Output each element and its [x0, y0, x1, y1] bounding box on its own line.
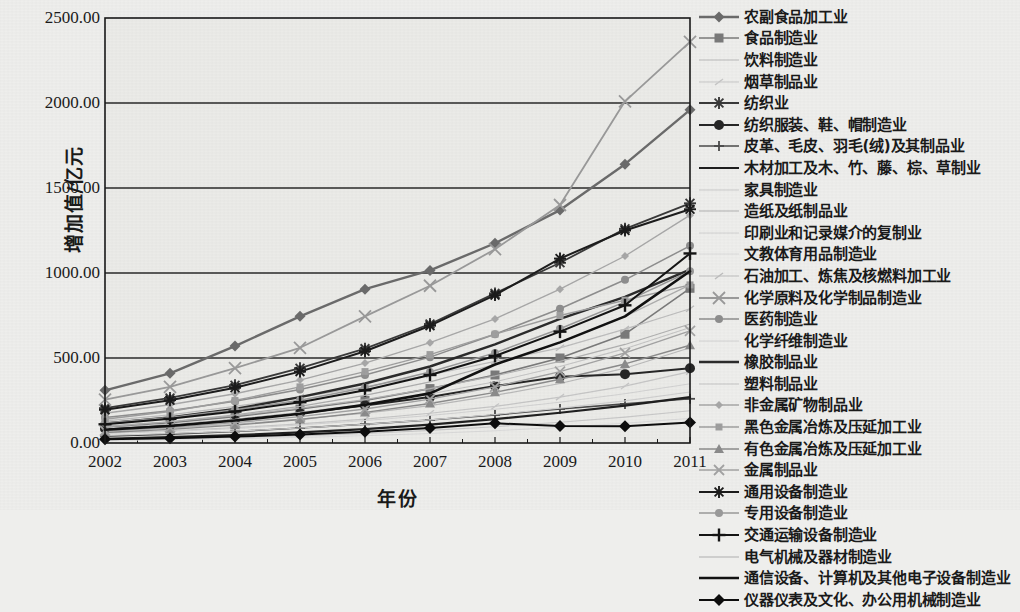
legend-item[interactable]: 交通运输设备制造业 — [698, 524, 1018, 546]
legend-item-label: 有色金属冶炼及压延加工业 — [744, 441, 922, 457]
legend-item[interactable]: 烟草制品业 — [698, 71, 1018, 93]
legend-item[interactable]: 石油加工、炼焦及核燃料加工业 — [698, 265, 1018, 287]
legend-item-label: 造纸及纸制品业 — [744, 203, 848, 219]
data-point-marker — [556, 305, 564, 313]
legend-key-icon — [698, 460, 740, 480]
legend-key-icon — [698, 266, 740, 286]
legend-key-icon — [698, 439, 740, 459]
legend-item[interactable]: 文教体育用品制造业 — [698, 244, 1018, 266]
legend-item[interactable]: 专用设备制造业 — [698, 503, 1018, 525]
chart-legend: 农副食品加工业食品制造业饮料制造业烟草制品业纺织业纺织服装、鞋、帽制造业皮革、毛… — [698, 6, 1018, 504]
x-tick-label: 2009 — [525, 452, 595, 472]
x-tick-label: 2008 — [460, 452, 530, 472]
data-point-marker — [621, 276, 629, 284]
legend-item-label: 化学原料及化学制品制造业 — [744, 290, 922, 306]
data-point-marker — [297, 383, 304, 390]
legend-key-icon — [698, 568, 740, 588]
legend-key-icon — [698, 115, 740, 135]
legend-item[interactable]: 化学纤维制造业 — [698, 330, 1018, 352]
legend-item[interactable]: 家具制造业 — [698, 179, 1018, 201]
legend-item-label: 纺织服装、鞋、帽制造业 — [744, 117, 907, 133]
legend-item[interactable]: 皮革、毛皮、羽毛(绒)及其制品业 — [698, 136, 1018, 158]
legend-item[interactable]: 木材加工及木、竹、藤、棕、草制业 — [698, 157, 1018, 179]
legend-item-label: 仪器仪表及文化、办公用机械制造业 — [744, 592, 981, 608]
legend-item-label: 家具制造业 — [744, 182, 818, 198]
legend-item-label: 医药制造业 — [744, 311, 818, 327]
legend-key-icon — [698, 417, 740, 437]
data-point-marker — [715, 34, 724, 43]
legend-item[interactable]: 橡胶制品业 — [698, 352, 1018, 374]
data-point-marker — [713, 594, 725, 606]
legend-item[interactable]: 造纸及纸制品业 — [698, 200, 1018, 222]
data-point-marker — [427, 351, 434, 358]
legend-item[interactable]: 仪器仪表及文化、办公用机械制造业 — [698, 589, 1018, 611]
legend-key-icon — [698, 50, 740, 70]
legend-item-label: 烟草制品业 — [744, 74, 818, 90]
data-point-marker — [557, 312, 564, 319]
legend-item-label: 黑色金属冶炼及压延加工业 — [744, 419, 922, 435]
legend-item-label: 化学纤维制造业 — [744, 333, 848, 349]
legend-item-label: 电气机械及器材制造业 — [744, 549, 892, 565]
legend-item-label: 专用设备制造业 — [744, 505, 848, 521]
legend-key-icon — [698, 374, 740, 394]
legend-item[interactable]: 通信设备、计算机及其他电子设备制造业 — [698, 567, 1018, 589]
data-point-marker — [492, 331, 499, 338]
legend-item[interactable]: 有色金属冶炼及压延加工业 — [698, 438, 1018, 460]
legend-item-label: 文教体育用品制造业 — [744, 246, 877, 262]
legend-item-label: 木材加工及木、竹、藤、棕、草制业 — [744, 160, 981, 176]
data-point-marker — [716, 424, 723, 431]
x-tick-label: 2004 — [200, 452, 270, 472]
legend-item[interactable]: 饮料制造业 — [698, 49, 1018, 71]
x-axis-tick-labels: 2002200320042005200620072008200920102011 — [105, 452, 690, 478]
x-tick-label: 2003 — [135, 452, 205, 472]
legend-key-icon — [698, 244, 740, 264]
legend-item-label: 交通运输设备制造业 — [744, 527, 877, 543]
legend-key-icon — [698, 158, 740, 178]
legend-item-label: 金属制品业 — [744, 462, 818, 478]
legend-key-icon — [698, 93, 740, 113]
legend-item-label: 皮革、毛皮、羽毛(绒)及其制品业 — [744, 138, 965, 154]
legend-item-label: 食品制造业 — [744, 30, 818, 46]
legend-item-label: 橡胶制品业 — [744, 354, 818, 370]
legend-key-icon — [698, 525, 740, 545]
legend-key-icon — [698, 7, 740, 27]
legend-item[interactable]: 化学原料及化学制品制造业 — [698, 287, 1018, 309]
x-tick-label: 2010 — [590, 452, 660, 472]
legend-key-icon — [698, 331, 740, 351]
x-tick-label: 2006 — [330, 452, 400, 472]
x-axis-title: 年份 — [105, 484, 690, 511]
legend-item[interactable]: 电气机械及器材制造业 — [698, 546, 1018, 568]
legend-item[interactable]: 医药制造业 — [698, 308, 1018, 330]
legend-item[interactable]: 农副食品加工业 — [698, 6, 1018, 28]
legend-item[interactable]: 塑料制品业 — [698, 373, 1018, 395]
legend-item[interactable]: 纺织服装、鞋、帽制造业 — [698, 114, 1018, 136]
legend-item[interactable]: 黑色金属冶炼及压延加工业 — [698, 416, 1018, 438]
legend-item[interactable]: 金属制品业 — [698, 459, 1018, 481]
data-point-marker — [620, 369, 630, 379]
legend-key-icon — [698, 201, 740, 221]
legend-item[interactable]: 印刷业和记录媒介的复制业 — [698, 222, 1018, 244]
legend-key-icon — [698, 395, 740, 415]
legend-key-icon — [698, 352, 740, 372]
legend-item-label: 印刷业和记录媒介的复制业 — [744, 225, 922, 241]
legend-key-icon — [698, 180, 740, 200]
legend-key-icon — [698, 223, 740, 243]
data-point-marker — [232, 397, 239, 404]
legend-key-icon — [698, 136, 740, 156]
legend-item-label: 纺织业 — [744, 95, 788, 111]
legend-item[interactable]: 纺织业 — [698, 92, 1018, 114]
legend-item-label: 非金属矿物制品业 — [744, 397, 862, 413]
legend-item-label: 通用设备制造业 — [744, 484, 848, 500]
legend-item[interactable]: 通用设备制造业 — [698, 481, 1018, 503]
legend-key-icon — [698, 547, 740, 567]
x-tick-label: 2007 — [395, 452, 465, 472]
data-point-marker — [715, 509, 723, 517]
legend-item[interactable]: 食品制造业 — [698, 28, 1018, 50]
legend-key-icon — [698, 28, 740, 48]
legend-item-label: 石油加工、炼焦及核燃料加工业 — [744, 268, 951, 284]
legend-item-label: 农副食品加工业 — [744, 9, 848, 25]
data-point-marker — [715, 315, 723, 323]
legend-key-icon — [698, 590, 740, 610]
legend-item[interactable]: 非金属矿物制品业 — [698, 395, 1018, 417]
